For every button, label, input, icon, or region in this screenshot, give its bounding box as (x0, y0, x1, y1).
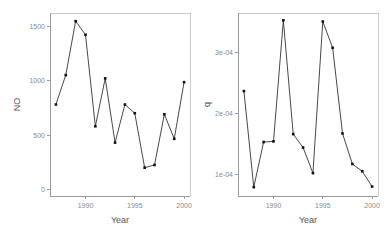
x-axis-title: Year (111, 215, 129, 225)
data-point (292, 133, 295, 136)
y-tick-label: 0 (41, 186, 45, 193)
y-tick-label: 1500 (29, 23, 45, 30)
x-tick-label: 1995 (127, 202, 143, 209)
x-tick-label: 1995 (315, 202, 331, 209)
data-point (84, 33, 87, 36)
x-tick-label: 2000 (176, 202, 192, 209)
data-point (143, 166, 146, 169)
figure-two-panel-timeseries: 050010001500199019952000YearNO 1e-042e-0… (0, 0, 392, 232)
data-point (312, 172, 315, 175)
y-axis-title: NO (12, 98, 22, 112)
y-tick-label: 1000 (29, 77, 45, 84)
data-point (341, 132, 344, 135)
y-tick-label: 500 (33, 132, 45, 139)
data-point (351, 163, 354, 166)
data-point (252, 186, 255, 189)
data-point (64, 74, 67, 77)
data-point (114, 141, 117, 144)
y-tick-label: 3e-04 (215, 49, 233, 56)
data-point (183, 81, 186, 84)
data-point (163, 113, 166, 116)
data-point (282, 19, 285, 22)
data-point (272, 140, 275, 143)
panel-frame (50, 13, 190, 196)
data-point (262, 141, 265, 144)
panel-frame (238, 13, 378, 196)
data-point (361, 170, 364, 173)
x-tick-label: 1990 (266, 202, 282, 209)
data-point (331, 46, 334, 49)
plot-area-right: 1e-042e-043e-04199019952000Yearq (196, 0, 392, 232)
y-tick-label: 1e-04 (215, 171, 233, 178)
data-point (173, 138, 176, 141)
series-line (244, 20, 372, 187)
data-point (321, 20, 324, 23)
data-point (133, 112, 136, 115)
panel-q-vs-year: 1e-042e-043e-04199019952000Yearq (196, 0, 392, 232)
data-point (243, 90, 246, 93)
panel-no-vs-year: 050010001500199019952000YearNO (0, 0, 196, 232)
x-tick-label: 1990 (78, 202, 94, 209)
data-point (74, 20, 77, 23)
plot-area-left: 050010001500199019952000YearNO (0, 0, 196, 232)
x-axis-title: Year (299, 215, 317, 225)
x-tick-label: 2000 (364, 202, 380, 209)
data-point (104, 77, 107, 80)
data-point (153, 164, 156, 167)
y-axis-title: q (202, 102, 212, 107)
y-tick-label: 2e-04 (215, 110, 233, 117)
data-point (94, 125, 97, 128)
series-line (56, 21, 184, 168)
data-point (371, 185, 374, 188)
data-point (124, 103, 127, 106)
data-point (302, 146, 305, 149)
data-point (55, 103, 58, 106)
